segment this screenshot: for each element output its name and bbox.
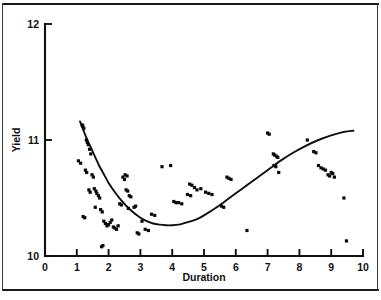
data-point	[137, 232, 140, 235]
data-point	[274, 165, 277, 168]
data-point	[125, 174, 128, 177]
x-tick-label: 7	[265, 261, 271, 273]
data-point	[127, 207, 130, 210]
y-axis-title: Yield	[10, 128, 22, 153]
data-point	[160, 165, 163, 168]
data-point	[245, 229, 248, 232]
y-axis-tick-labels: 101112	[27, 18, 39, 262]
data-point	[314, 151, 317, 154]
data-point	[199, 187, 202, 190]
y-tick-label: 12	[27, 18, 39, 30]
data-point	[126, 189, 129, 192]
data-point	[83, 216, 86, 219]
data-point	[89, 191, 92, 194]
data-point	[204, 191, 207, 194]
data-point	[222, 206, 225, 209]
data-point	[89, 152, 92, 155]
x-tick-label: 6	[233, 261, 239, 273]
data-point	[333, 176, 336, 179]
data-point	[123, 178, 126, 181]
data-point	[342, 196, 345, 199]
data-point	[101, 210, 104, 213]
scatter-plot: 012345678910 101112 Duration Yield	[0, 0, 381, 300]
y-tick-label: 10	[27, 250, 39, 262]
data-point	[117, 224, 120, 227]
figure-root: 012345678910 101112 Duration Yield	[0, 0, 381, 300]
data-point	[324, 169, 327, 172]
x-tick-label: 8	[296, 261, 302, 273]
data-point	[120, 203, 123, 206]
data-point	[186, 193, 189, 196]
axes-group	[45, 24, 363, 256]
x-tick-label: 1	[74, 261, 80, 273]
y-tick-label: 11	[28, 134, 39, 146]
data-point	[276, 156, 279, 159]
data-point	[345, 239, 348, 242]
data-point	[140, 220, 143, 223]
data-point	[129, 195, 132, 198]
data-point	[144, 228, 147, 231]
data-point	[229, 178, 232, 181]
data-point	[98, 196, 101, 199]
data-point	[180, 202, 183, 205]
data-point	[94, 206, 97, 209]
data-point	[268, 133, 271, 136]
data-point	[189, 194, 192, 197]
data-point	[92, 176, 95, 179]
x-axis-title: Duration	[182, 271, 225, 283]
data-point	[87, 143, 90, 146]
data-point	[277, 171, 280, 174]
data-point	[177, 201, 180, 204]
data-point	[331, 172, 334, 175]
data-point	[207, 192, 210, 195]
data-point	[153, 214, 156, 217]
x-tick-label: 0	[42, 261, 48, 273]
data-point	[79, 162, 82, 165]
x-tick-label: 2	[106, 261, 112, 273]
data-point	[150, 213, 153, 216]
data-point-group	[77, 123, 348, 248]
data-point	[110, 218, 113, 221]
data-point	[328, 174, 331, 177]
x-tick-label: 4	[169, 261, 175, 273]
data-point	[169, 164, 172, 167]
data-point	[82, 127, 85, 130]
data-point	[115, 228, 118, 231]
data-point	[210, 193, 213, 196]
data-point	[85, 171, 88, 174]
data-point	[88, 148, 91, 151]
data-point	[134, 205, 137, 208]
x-tick-label: 9	[328, 261, 334, 273]
data-point	[101, 244, 104, 247]
fitted-trend-curve	[80, 121, 353, 225]
x-tick-label: 10	[357, 261, 369, 273]
x-tick-label: 3	[137, 261, 143, 273]
data-point	[306, 138, 309, 141]
data-point	[195, 188, 198, 191]
data-point	[147, 229, 150, 232]
